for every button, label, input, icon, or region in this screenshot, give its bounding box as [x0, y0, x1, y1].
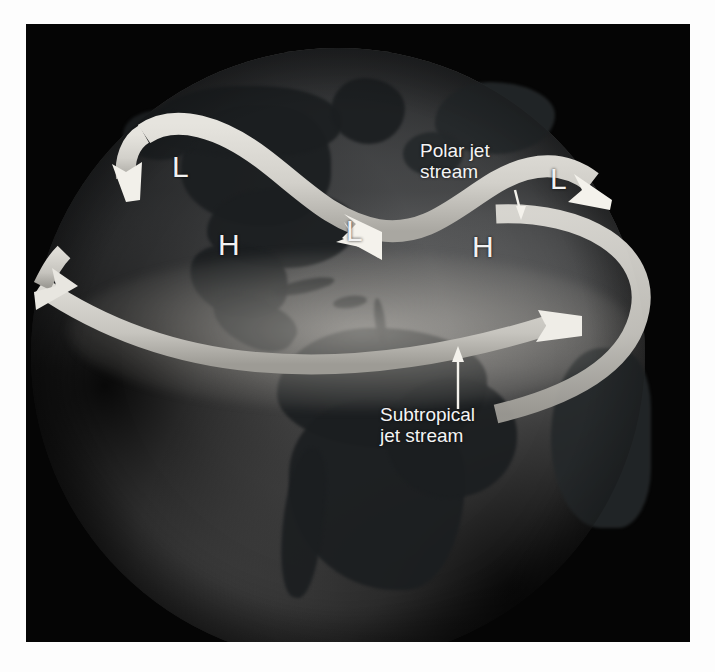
polar-jet-stream-label: Polar jet stream	[420, 140, 490, 182]
low-pressure-marker-northwest: L	[172, 152, 189, 182]
image-plate: Polar jet stream Subtropical jet stream …	[26, 24, 690, 642]
subtropical-jet-stream-ribbon	[34, 214, 641, 414]
figure-page: Polar jet stream Subtropical jet stream …	[0, 0, 715, 672]
high-pressure-marker-west: H	[218, 230, 240, 260]
jet-stream-overlay	[26, 24, 690, 642]
low-pressure-marker-northeast: L	[550, 164, 567, 194]
low-pressure-marker-center: L	[346, 216, 363, 246]
subtropical-jet-stream-label: Subtropical jet stream	[380, 404, 475, 446]
high-pressure-marker-east: H	[472, 232, 494, 262]
